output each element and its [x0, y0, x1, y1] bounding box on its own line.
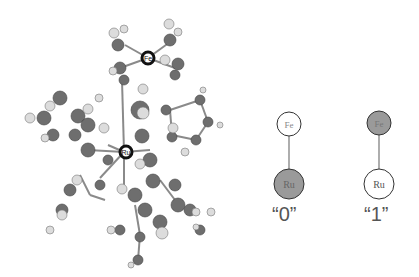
fe-center-atom: Fe: [142, 52, 154, 64]
svg-text:Fe: Fe: [375, 119, 384, 129]
svg-text:Fe: Fe: [144, 55, 152, 62]
molecule-diagram: Fe Ru Fe Ru Fe Ru: [0, 0, 419, 277]
state-0-diagram: Fe Ru: [274, 112, 304, 199]
svg-text:Ru: Ru: [283, 179, 295, 190]
svg-text:Ru: Ru: [373, 179, 385, 190]
state-0-label: “0”: [272, 203, 296, 226]
svg-text:Ru: Ru: [122, 149, 131, 156]
state-1-diagram: Fe Ru: [364, 111, 394, 199]
svg-text:Fe: Fe: [285, 120, 294, 130]
ru-center-atom: Ru: [120, 146, 132, 158]
state-1-label: “1”: [364, 203, 388, 226]
